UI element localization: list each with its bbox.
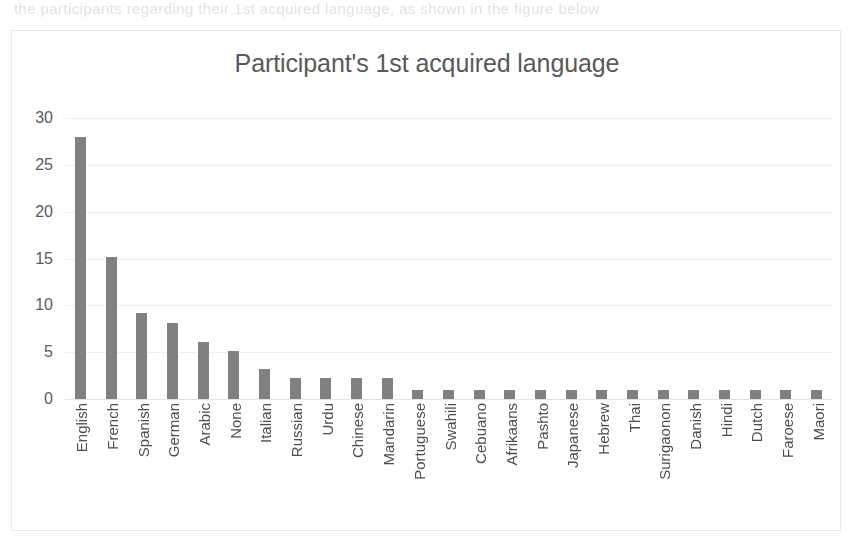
x-axis: EnglishFrenchSpanishGermanArabicNoneItal… [65, 403, 832, 529]
x-tick-label: None [227, 403, 241, 439]
x-tick-label: Cebuano [472, 403, 486, 464]
bar[interactable] [688, 390, 699, 399]
x-tick-label: Faroese [779, 403, 793, 458]
bar[interactable] [596, 390, 607, 399]
y-tick-label: 10 [12, 296, 61, 314]
x-tick-label: Arabic [196, 403, 210, 446]
x-tick-label: Russian [288, 403, 302, 457]
y-tick-label: 30 [12, 109, 61, 127]
x-tick-label: Japanese [564, 403, 578, 468]
x-tick-label: Surigaonon [656, 403, 670, 480]
bar[interactable] [474, 390, 485, 399]
bars-layer [65, 118, 832, 399]
x-tick-label: Hindi [718, 403, 732, 437]
bar[interactable] [780, 390, 791, 399]
bar[interactable] [719, 390, 730, 399]
y-axis: 051015202530 [12, 118, 61, 399]
bar[interactable] [750, 390, 761, 399]
y-tick-label: 0 [12, 390, 61, 408]
x-tick-label: Hebrew [595, 403, 609, 455]
bar[interactable] [198, 342, 209, 399]
x-tick-label: Italian [257, 403, 271, 443]
bar[interactable] [106, 257, 117, 399]
y-tick-label: 15 [12, 250, 61, 268]
x-tick-label: French [104, 403, 118, 450]
bar[interactable] [412, 390, 423, 399]
bar[interactable] [658, 390, 669, 399]
gridline-0 [65, 399, 832, 400]
x-tick-label: English [73, 403, 87, 452]
x-tick-label: German [165, 403, 179, 457]
y-tick-label: 5 [12, 343, 61, 361]
bar[interactable] [566, 390, 577, 399]
x-tick-label: Danish [687, 403, 701, 450]
bar[interactable] [290, 378, 301, 399]
y-tick-label: 20 [12, 203, 61, 221]
x-tick-label: Thai [626, 403, 640, 432]
x-tick-label: Pashto [534, 403, 548, 450]
bar[interactable] [320, 378, 331, 399]
x-tick-label: Maori [810, 403, 824, 441]
bar[interactable] [504, 390, 515, 399]
bar[interactable] [75, 137, 86, 399]
bar[interactable] [228, 351, 239, 399]
bar[interactable] [259, 369, 270, 399]
x-tick-label: Swahili [442, 403, 456, 451]
bar[interactable] [351, 378, 362, 399]
bar[interactable] [136, 313, 147, 399]
x-tick-label: Spanish [135, 403, 149, 457]
bar[interactable] [811, 390, 822, 399]
chart-frame: Participant's 1st acquired language 0510… [11, 30, 841, 531]
bar[interactable] [535, 390, 546, 399]
x-tick-label: Urdu [319, 403, 333, 436]
x-tick-label: Portuguese [411, 403, 425, 480]
chart-title: Participant's 1st acquired language [12, 49, 842, 78]
bar[interactable] [627, 390, 638, 399]
x-tick-label: Mandarin [380, 403, 394, 466]
bar[interactable] [167, 323, 178, 399]
x-tick-label: Chinese [349, 403, 363, 458]
x-tick-label: Dutch [748, 403, 762, 442]
x-tick-label: Afrikaans [503, 403, 517, 466]
page-text-bleed: the participants regarding their 1st acq… [0, 0, 858, 22]
bar[interactable] [443, 390, 454, 399]
bar[interactable] [382, 378, 393, 399]
y-tick-label: 25 [12, 156, 61, 174]
